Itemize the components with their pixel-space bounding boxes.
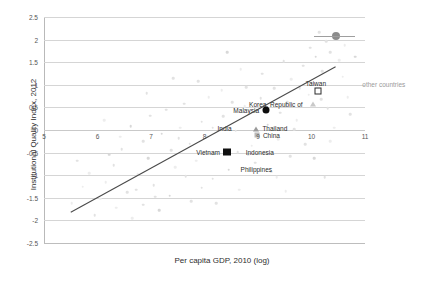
scatter-point (321, 70, 324, 73)
scatter-point (234, 130, 237, 133)
x-tick-label: 10 (308, 133, 315, 140)
y-tick-label: 2.5 (29, 14, 38, 21)
scatter-point (184, 175, 187, 178)
scatter-point (338, 59, 341, 62)
country-label-indonesia: Indonesia (246, 149, 274, 156)
scatter-point (333, 126, 336, 129)
scatter-point (135, 188, 138, 191)
scatter-point (238, 188, 241, 191)
scatter-point (240, 68, 243, 71)
scatter-point (168, 194, 171, 197)
scatter-point (320, 98, 323, 101)
x-tick-label: 8 (203, 133, 207, 140)
annotation-other-countries: other countries (362, 80, 405, 87)
country-marker-india (211, 126, 214, 129)
scatter-point (178, 137, 181, 140)
gridline (44, 243, 365, 244)
scatter-point (129, 125, 132, 128)
x-axis-title: Per capita GDP, 2010 (log) (0, 256, 444, 265)
scatter-point (259, 97, 262, 100)
scatter-point (103, 119, 106, 122)
scatter-point (201, 121, 204, 124)
scatter-point (215, 202, 218, 205)
scatter-point (325, 40, 328, 43)
scatter-point (298, 87, 301, 90)
scatter-point (154, 196, 157, 199)
country-label-taiwan: Taiwan (306, 80, 326, 87)
scatter-point (112, 164, 115, 167)
scatter-point (293, 128, 296, 131)
x-tick-label: 6 (96, 133, 100, 140)
country-marker-korea-republic-of (310, 102, 316, 107)
country-label-china: China (263, 132, 280, 139)
country-label-vietnam: Vietnam (196, 149, 220, 156)
scatter-point (279, 112, 282, 115)
scatter-point (174, 166, 177, 169)
scatter-point (245, 86, 248, 89)
scatter-point (314, 55, 317, 58)
gridline (44, 40, 365, 41)
country-label-philippines: Philippines (241, 165, 272, 172)
y-axis-title: Institutional Quality Index, 2012 (29, 40, 38, 230)
scatter-point (211, 178, 214, 181)
country-marker-malaysia (263, 106, 270, 113)
scatter-point (99, 197, 102, 200)
scatter-point (81, 185, 84, 188)
scatter-point (88, 172, 91, 175)
scatter-point (275, 176, 278, 179)
scatter-point (285, 190, 288, 193)
scatter-point (119, 135, 122, 138)
scatter-point (149, 114, 152, 117)
scatter-point (71, 202, 74, 205)
scatter-point (341, 75, 344, 78)
scatter-point (290, 78, 293, 81)
scatter-point (136, 173, 139, 176)
scatter-point (282, 60, 285, 63)
x-tick-label: 9 (256, 133, 260, 140)
scatter-point (329, 140, 332, 143)
scatter-point (190, 200, 193, 203)
gridline (44, 107, 365, 108)
scatter-point (349, 113, 352, 116)
scatter-point (183, 102, 186, 105)
scatter-point (261, 72, 264, 75)
scatter-point (145, 92, 148, 95)
gridline (44, 130, 365, 131)
scatter-point (250, 145, 253, 148)
scatter-point (195, 159, 198, 162)
gridline (44, 198, 365, 199)
scatter-point (254, 161, 257, 164)
scatter-point (115, 206, 118, 209)
scatter-point (231, 101, 234, 104)
country-marker-thailand (253, 126, 259, 131)
scatter-point (188, 142, 191, 145)
country-label-india: India (218, 124, 232, 131)
scatter-point (304, 143, 307, 146)
scatter-point (179, 126, 182, 129)
country-label-malaysia: Malaysia (233, 106, 259, 113)
scatter-point (302, 65, 305, 68)
country-label-thailand: Thailand (262, 124, 287, 131)
gridline (44, 17, 365, 18)
gridline (44, 220, 365, 221)
x-tick-label: 11 (362, 133, 369, 140)
scatter-point (126, 191, 129, 194)
country-marker-vietnam (223, 149, 231, 156)
plot-area: TaiwanKorea, Republic ofMalaysiaThailand… (44, 17, 365, 243)
gridline (44, 175, 365, 176)
scatter-point (172, 77, 175, 80)
scatter-point (131, 217, 134, 220)
scatter-point (227, 168, 230, 171)
scatter-point (329, 51, 332, 54)
scatter-point (326, 107, 329, 110)
scatter-point (120, 148, 123, 151)
x-tick-label: 7 (149, 133, 153, 140)
scatter-point (313, 157, 316, 160)
scatter-point (295, 119, 298, 122)
x-tick-label: 5 (42, 133, 46, 140)
scatter-point (347, 96, 350, 99)
scatter-point (308, 93, 311, 96)
scatter-point (343, 44, 346, 47)
scatter-point (289, 155, 292, 158)
scatter-point (104, 181, 107, 184)
